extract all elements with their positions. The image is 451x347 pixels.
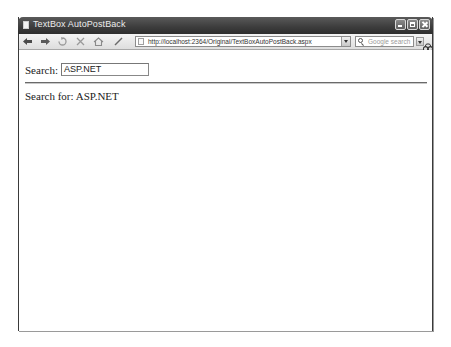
back-icon[interactable] [22, 37, 33, 46]
address-dropdown-button[interactable] [341, 37, 350, 46]
page-icon [138, 38, 144, 45]
horizontal-rule [25, 82, 427, 84]
window-title: TextBox AutoPostBack [33, 19, 126, 29]
close-button[interactable] [419, 19, 430, 30]
address-input[interactable]: http://localhost:2364/Original/TextBoxAu… [148, 37, 312, 46]
stop-icon[interactable] [75, 37, 86, 46]
search-icon [358, 38, 363, 43]
home-icon[interactable] [93, 37, 104, 46]
page-icon [23, 21, 29, 29]
search-result-text: Search for: ASP.NET [25, 90, 119, 102]
navigation-toolbar: http://localhost:2364/Original/TextBoxAu… [19, 34, 432, 50]
search-engine-box[interactable]: Google search [355, 36, 414, 47]
edit-pencil-icon[interactable] [113, 37, 124, 46]
browser-window: TextBox AutoPostBack http://localhost:23… [18, 17, 433, 331]
address-bar[interactable]: http://localhost:2364/Original/TextBoxAu… [135, 36, 351, 47]
page-content: Search: ASP.NET Search for: ASP.NET [19, 50, 432, 331]
reload-icon[interactable] [57, 37, 68, 46]
search-row: Search: ASP.NET [25, 63, 149, 76]
search-label: Search: [25, 64, 58, 76]
search-engine-input[interactable]: Google search [368, 37, 410, 46]
binoculars-icon[interactable] [423, 37, 433, 46]
window-controls [395, 19, 430, 30]
search-textbox[interactable]: ASP.NET [61, 63, 149, 76]
title-bar[interactable]: TextBox AutoPostBack [18, 17, 433, 34]
maximize-button[interactable] [407, 19, 418, 30]
forward-icon[interactable] [40, 37, 51, 46]
minimize-button[interactable] [395, 19, 406, 30]
